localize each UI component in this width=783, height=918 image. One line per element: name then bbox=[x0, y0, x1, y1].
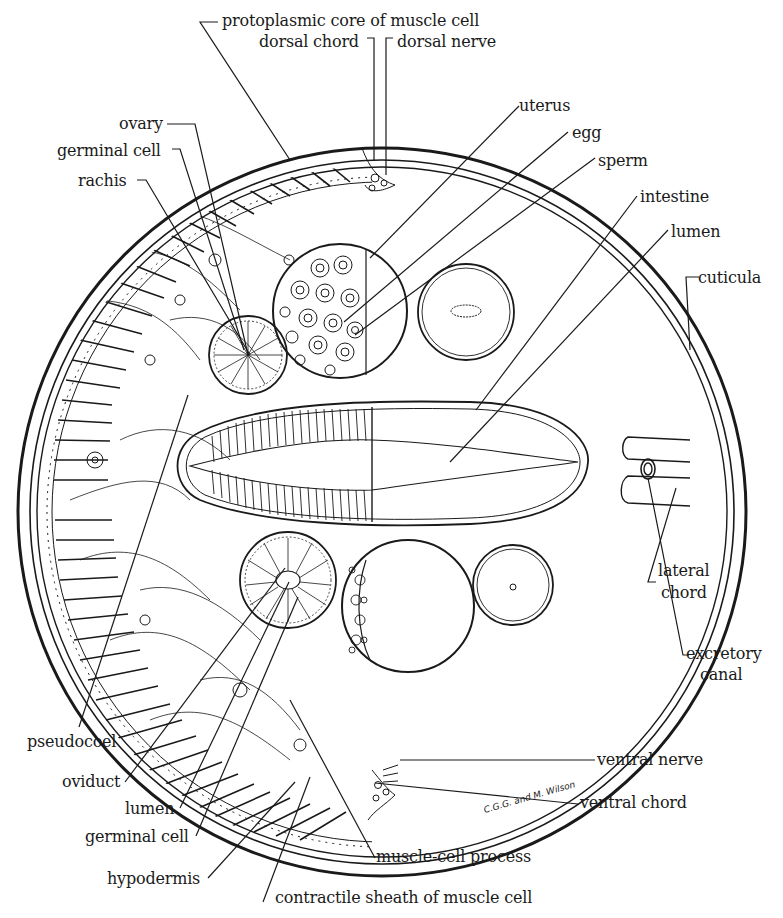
label-intestine: intestine bbox=[640, 188, 709, 206]
ovary-bottom bbox=[240, 532, 336, 628]
label-excretory-canal-2: canal bbox=[700, 666, 742, 684]
label-sperm: sperm bbox=[598, 152, 648, 170]
label-dorsal-nerve: dorsal nerve bbox=[397, 33, 496, 51]
label-egg: egg bbox=[572, 124, 601, 142]
label-lumen-bottom: lumen bbox=[125, 800, 174, 818]
label-uterus: uterus bbox=[519, 97, 570, 115]
label-cuticula: cuticula bbox=[698, 269, 761, 287]
label-hypodermis: hypodermis bbox=[107, 870, 200, 888]
label-rachis: rachis bbox=[78, 172, 127, 190]
label-dorsal-chord: dorsal chord bbox=[259, 33, 359, 51]
label-germinal-cell-bottom: germinal cell bbox=[85, 828, 189, 846]
lateral-chord bbox=[621, 437, 690, 506]
label-germinal-cell-top: germinal cell bbox=[57, 142, 161, 160]
label-ventral-nerve: ventral nerve bbox=[597, 751, 703, 769]
label-lateral-chord-2: chord bbox=[661, 584, 707, 602]
label-ventral-chord: ventral chord bbox=[580, 794, 687, 812]
label-muscle-cell-process: muscle-cell process bbox=[376, 848, 531, 866]
label-ovary: ovary bbox=[119, 115, 163, 133]
oviduct-bottom-right bbox=[473, 545, 553, 625]
label-excretory-canal-1: excretory bbox=[686, 645, 762, 663]
intestine bbox=[178, 401, 589, 525]
label-protoplasmic-core: protoplasmic core of muscle cell bbox=[222, 12, 479, 30]
uterus-bottom bbox=[342, 540, 474, 672]
label-pseudocoel: pseudocoel bbox=[27, 733, 116, 751]
uterus-top bbox=[270, 240, 407, 380]
label-lateral-chord-1: lateral bbox=[658, 562, 709, 580]
ventral-chord bbox=[368, 765, 398, 820]
label-oviduct: oviduct bbox=[62, 773, 120, 791]
dorsal-chord bbox=[362, 148, 395, 191]
label-lumen-top: lumen bbox=[671, 223, 720, 241]
label-contractile-sheath: contractile sheath of muscle cell bbox=[275, 889, 532, 907]
